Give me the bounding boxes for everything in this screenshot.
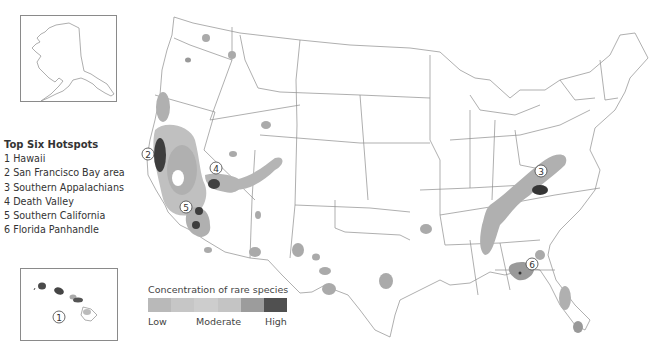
svg-text:3: 3 [538, 167, 544, 177]
legend-color-scale [148, 298, 287, 312]
hotspot-item: 1 Hawaii [4, 152, 125, 166]
hotspot-item: 5 Southern California [4, 209, 125, 223]
marker-5: 5 [180, 201, 192, 213]
svg-text:6: 6 [529, 260, 535, 270]
legend-swatch [148, 298, 171, 312]
marker-3: 3 [535, 165, 547, 177]
hotspot-item: 6 Florida Panhandle [4, 223, 125, 237]
legend-swatch [171, 298, 194, 312]
legend-moderate-label: Moderate [196, 316, 241, 327]
legend-low-label: Low [148, 316, 167, 327]
legend-swatch [194, 298, 217, 312]
svg-text:2: 2 [145, 150, 151, 160]
legend: Concentration of rare species Low Modera… [148, 284, 292, 330]
legend-title: Concentration of rare species [148, 284, 292, 295]
legend-swatch [218, 298, 241, 312]
hotspot-item: 2 San Francisco Bay area [4, 166, 125, 180]
svg-text:5: 5 [183, 203, 189, 213]
hotspot-item: 4 Death Valley [4, 195, 125, 209]
hotspots-title: Top Six Hotspots [4, 138, 125, 152]
hawaii-inset: 1 [20, 268, 118, 341]
marker-6: 6 [526, 258, 538, 270]
hotspot-item: 3 Southern Appalachians [4, 181, 125, 195]
legend-high-label: High [265, 316, 287, 327]
svg-text:4: 4 [213, 164, 219, 174]
svg-text:1: 1 [56, 313, 62, 323]
hawaii-islands: 1 [21, 269, 117, 340]
hotspots-list: Top Six Hotspots 1 Hawaii 2 San Francisc… [4, 138, 125, 237]
alaska-outline [21, 16, 116, 101]
legend-swatch [264, 298, 287, 312]
alaska-inset [20, 15, 117, 102]
marker-2: 2 [142, 148, 154, 160]
legend-swatch [241, 298, 264, 312]
marker-4: 4 [210, 162, 222, 174]
